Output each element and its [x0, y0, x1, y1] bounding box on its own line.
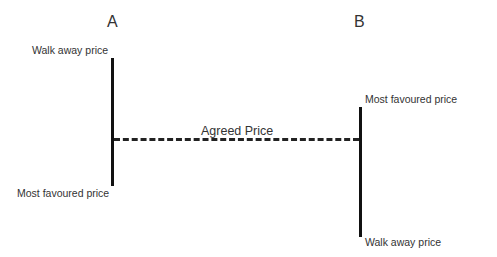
party-b-range-line	[359, 107, 362, 237]
party-a-label: A	[107, 13, 118, 31]
agreed-price-label: Agreed Price	[201, 124, 273, 138]
party-b-label: B	[354, 13, 365, 31]
negotiation-diagram: A B Walk away price Most favoured price …	[0, 0, 497, 257]
b-most-favoured-label: Most favoured price	[365, 93, 457, 105]
a-most-favoured-label: Most favoured price	[17, 187, 109, 199]
b-walk-away-label: Walk away price	[365, 236, 441, 248]
a-walk-away-label: Walk away price	[32, 44, 108, 56]
agreed-price-line	[114, 138, 359, 141]
party-a-range-line	[111, 58, 114, 186]
